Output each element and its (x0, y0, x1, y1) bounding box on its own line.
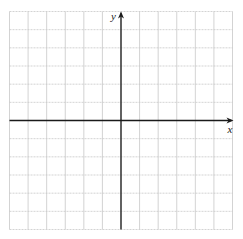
x-axis-label: x (227, 123, 233, 135)
y-axis-label: y (110, 10, 116, 22)
coordinate-plane: x y (0, 0, 243, 239)
